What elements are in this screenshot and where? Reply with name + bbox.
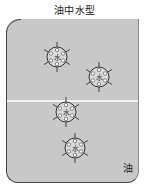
svg-text:水: 水	[96, 73, 103, 82]
svg-text:水: 水	[63, 108, 70, 117]
oil-label: 油	[123, 160, 133, 175]
svg-text:水: 水	[72, 144, 79, 153]
water-droplet: 水	[44, 42, 70, 72]
water-droplet: 水	[53, 97, 79, 127]
svg-text:水: 水	[54, 53, 61, 62]
water-droplet: 水	[62, 133, 88, 163]
droplet-layer: 水水水水	[0, 0, 149, 187]
water-droplet: 水	[86, 62, 112, 92]
